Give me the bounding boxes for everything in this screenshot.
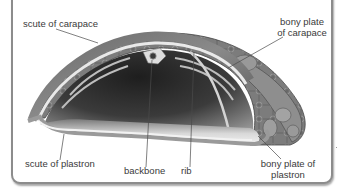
label-bony-plate-of-carapace-line1: bony plate bbox=[272, 16, 332, 27]
label-bony-plate-of-carapace-line2: of carapace bbox=[272, 27, 332, 38]
leader-scute-of-plastron bbox=[60, 134, 64, 160]
label-bony-plate-of-plastron-line2: plastron bbox=[257, 169, 319, 180]
label-backbone: backbone bbox=[124, 165, 165, 176]
label-bony-plate-of-carapace: bony plate of carapace bbox=[272, 16, 332, 38]
leader-scute-of-carapace bbox=[56, 29, 98, 43]
label-scute-of-carapace: scute of carapace bbox=[23, 18, 98, 29]
label-bony-plate-of-plastron: bony plate of plastron bbox=[257, 158, 319, 180]
label-rib: rib bbox=[181, 165, 192, 176]
label-bony-plate-of-plastron-line1: bony plate of bbox=[257, 158, 319, 169]
label-scute-of-plastron: scute of plastron bbox=[25, 158, 95, 169]
